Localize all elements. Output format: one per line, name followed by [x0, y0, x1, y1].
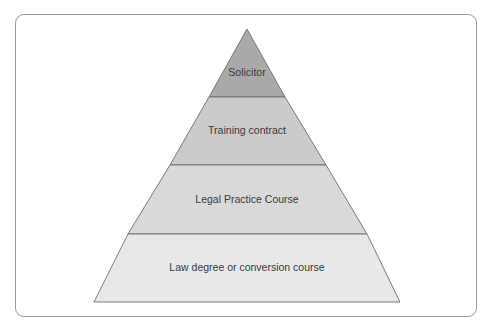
tier-label: Training contract — [208, 124, 286, 136]
tier-shape — [209, 29, 285, 97]
pyramid-tier-law-degree: Law degree or conversion course — [94, 234, 400, 302]
pyramid-tier-training-contract: Training contract — [170, 97, 326, 165]
pyramid-tier-legal-practice-course: Legal Practice Course — [128, 165, 367, 234]
tier-label: Law degree or conversion course — [169, 261, 324, 273]
tier-label: Legal Practice Course — [195, 193, 298, 205]
pyramid-diagram: Solicitor Training contract Legal Practi… — [0, 0, 494, 328]
pyramid-tier-solicitor: Solicitor — [209, 29, 285, 97]
tier-label: Solicitor — [228, 66, 266, 78]
